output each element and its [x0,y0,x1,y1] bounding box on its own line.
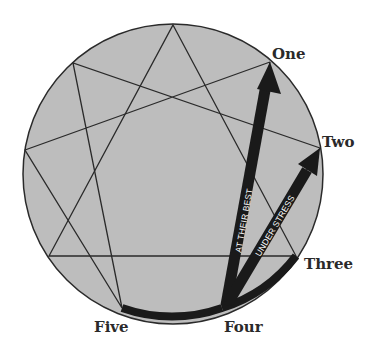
label-three: Three [304,255,353,273]
label-one: One [272,45,306,63]
label-five: Five [94,318,129,336]
label-two: Two [322,133,354,151]
enneagram-diagram: AT THEIR BEST UNDER STRESS One Two Three… [0,0,373,353]
label-four: Four [224,318,264,336]
